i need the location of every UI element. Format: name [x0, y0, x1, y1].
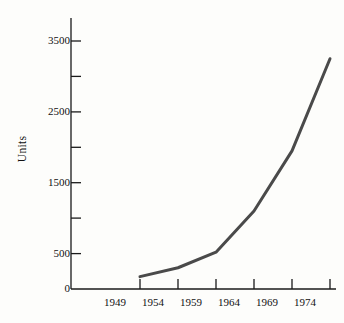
plot-canvas: [0, 0, 344, 323]
data-series-line: [140, 59, 330, 277]
chart-screenshot: Units 0 500 1500 2500 3500 1949 1954 195…: [0, 0, 344, 323]
y-axis-minor-ticks: [71, 76, 81, 218]
x-axis-ticks: [140, 279, 330, 289]
